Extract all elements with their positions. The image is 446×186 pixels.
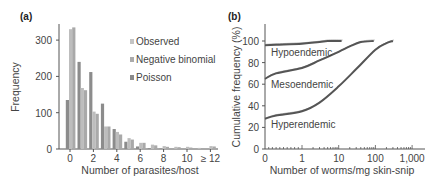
panel-b-y-label: Cumulative frequency (%) [230, 27, 242, 148]
bar-poisson [148, 148, 151, 149]
bar-negative-binomial [201, 148, 204, 149]
y-tick-label: 60 [248, 79, 260, 90]
y-tick-label: 0 [46, 144, 52, 155]
y-tick-label: 0 [253, 144, 259, 155]
panel-a-x-label: Number of parasites/host [81, 164, 198, 176]
panel-b-y-ticks: 020406080100 [242, 36, 265, 155]
x-tick-label: 2 [91, 153, 97, 164]
bar-poisson [101, 104, 104, 149]
bar-negative-binomial [119, 134, 122, 149]
bar-negative-binomial [107, 126, 110, 149]
panel-a-label: (a) [20, 11, 32, 22]
bar-observed [69, 29, 72, 149]
y-tick-label: 200 [35, 71, 52, 82]
panel-a: (a) 0100200300 0246810≥ 12 Frequency Num… [9, 11, 221, 176]
label-hyperendemic: Hyperendemic [271, 119, 335, 130]
x-tick-label: 0 [67, 153, 73, 164]
x-tick-label: 0 [262, 153, 268, 164]
x-tick-label: 1 [299, 153, 305, 164]
x-tick-label: 1,000 [400, 153, 425, 164]
bar-poisson [124, 142, 127, 149]
bar-negative-binomial [166, 147, 169, 149]
label-hypoendemic: Hypoendemic [271, 47, 332, 58]
panel-a-y-label: Frequency [9, 61, 21, 111]
x-tick-label: 10 [333, 153, 345, 164]
x-tick-label: ≥ 12 [201, 153, 221, 164]
bar-observed [209, 146, 212, 149]
bar-poisson [66, 100, 69, 149]
bar-observed [128, 138, 131, 149]
legend-negative-binomial: Negative binomial [136, 54, 216, 65]
legend-observed: Observed [136, 36, 179, 47]
legend-poisson: Poisson [136, 72, 172, 83]
bar-negative-binomial [213, 146, 216, 149]
bar-poisson [113, 129, 116, 149]
bar-observed [186, 147, 189, 149]
panel-b-label: (b) [228, 11, 241, 22]
bar-observed [139, 143, 142, 149]
bar-observed [81, 88, 84, 149]
y-tick-label: 100 [242, 36, 259, 47]
bar-observed [104, 126, 107, 149]
panel-b-x-label: Number of worms/mg skin-snip [270, 164, 415, 176]
panel-b-x-ticks: 01101001,000 [262, 145, 425, 164]
x-tick-label: 6 [137, 153, 143, 164]
bar-observed [174, 147, 177, 149]
bar-observed [92, 112, 95, 149]
bar-poisson [136, 146, 139, 149]
bar-negative-binomial [96, 114, 99, 149]
label-mesoendemic: Mesoendemic [271, 79, 333, 90]
bar-observed [151, 145, 154, 149]
y-tick-label: 100 [35, 108, 52, 119]
legend-swatch-poisson [130, 75, 134, 80]
y-tick-label: 20 [248, 122, 260, 133]
legend-swatch-negative-binomial [130, 57, 134, 62]
panel-a-x-ticks: 0246810≥ 12 [67, 149, 220, 164]
bar-observed [163, 146, 166, 149]
bar-negative-binomial [154, 145, 157, 149]
y-tick-label: 80 [248, 58, 260, 69]
bar-poisson [89, 72, 92, 149]
bar-negative-binomial [189, 148, 192, 149]
x-tick-label: 100 [367, 153, 384, 164]
bar-poisson [78, 62, 81, 149]
legend-swatch-observed [130, 39, 134, 44]
panel-a-y-ticks: 0100200300 [35, 35, 59, 155]
y-tick-label: 300 [35, 35, 52, 46]
y-tick-label: 40 [248, 101, 260, 112]
panel-a-legend: Observed Negative binomial Poisson [130, 36, 216, 83]
bar-observed [198, 148, 201, 149]
x-tick-label: 4 [114, 153, 120, 164]
x-tick-label: 8 [161, 153, 167, 164]
figure: (a) 0100200300 0246810≥ 12 Frequency Num… [0, 0, 446, 186]
x-tick-label: 10 [181, 153, 193, 164]
bar-negative-binomial [142, 143, 145, 149]
bar-negative-binomial [84, 90, 87, 149]
bar-negative-binomial [131, 140, 134, 149]
panel-b: (b) 020406080100 01101001,000 Cumulative… [228, 11, 425, 176]
bar-negative-binomial [72, 27, 75, 149]
bar-observed [116, 132, 119, 149]
bar-negative-binomial [178, 147, 181, 149]
fitted-curve-hypoendemic [265, 41, 342, 45]
